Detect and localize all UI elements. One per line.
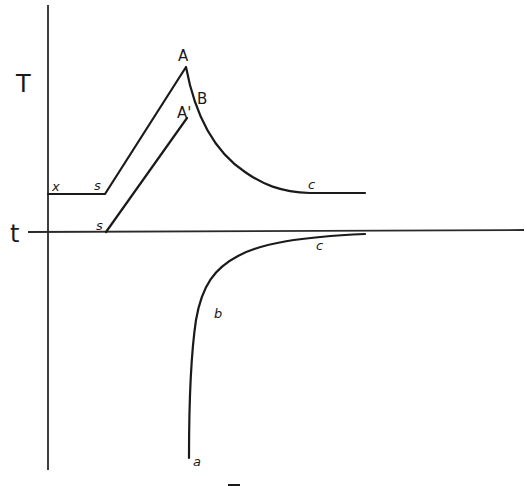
lower-label-c: c <box>316 238 323 253</box>
label-B: B <box>197 90 207 108</box>
upper-label-x: x <box>51 179 60 194</box>
upper-label-s: s <box>94 178 101 193</box>
peak-label-A: A <box>178 47 189 65</box>
upper-label-c: c <box>308 177 315 192</box>
vertical-axis-label: T <box>15 70 31 98</box>
label-A-prime: A' <box>177 104 191 122</box>
temperature-time-diagram: T t x s A B c s A' a b c <box>0 0 527 486</box>
lower-curve <box>189 234 365 458</box>
lower-label-a: a <box>193 454 201 469</box>
upper-curve <box>48 67 365 194</box>
horizontal-axis-label: t <box>10 220 19 248</box>
middle-label-s: s <box>96 218 103 233</box>
lower-label-b: b <box>214 306 222 321</box>
